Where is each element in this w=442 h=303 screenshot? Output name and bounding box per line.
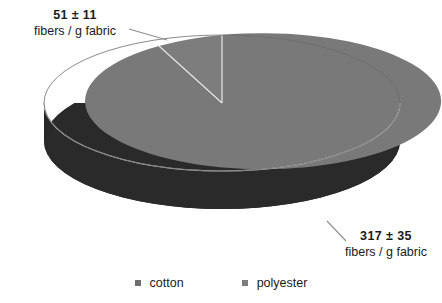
data-label-cotton-value: 51 ± 11 <box>16 8 134 24</box>
data-label-polyester: 317 ± 35 fibers / g fabric <box>334 229 438 260</box>
data-label-polyester-value: 317 ± 35 <box>334 229 438 245</box>
legend-label-cotton: cotton <box>150 276 184 290</box>
leader-line-cotton <box>129 29 167 40</box>
legend-swatch-cotton <box>135 280 141 286</box>
data-label-cotton: 51 ± 11 fibers / g fabric <box>16 8 134 39</box>
chart-legend: cotton polyester <box>0 272 442 294</box>
legend-item-polyester[interactable]: polyester <box>242 276 308 290</box>
legend-item-cotton[interactable]: cotton <box>135 276 184 290</box>
data-label-cotton-unit: fibers / g fabric <box>16 24 134 40</box>
pie-slice-polyester <box>85 33 441 169</box>
data-label-polyester-unit: fibers / g fabric <box>334 245 438 261</box>
legend-swatch-polyester <box>242 280 248 286</box>
legend-label-polyester: polyester <box>257 276 308 290</box>
pie-chart-figure: 51 ± 11 fibers / g fabric 317 ± 35 fiber… <box>0 0 442 303</box>
